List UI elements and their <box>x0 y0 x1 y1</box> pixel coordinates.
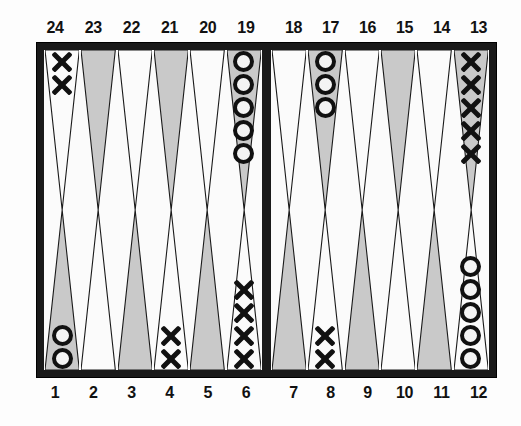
point-triangle-11 <box>417 210 451 370</box>
checker-x-13-5[interactable] <box>459 142 482 165</box>
checker-o-17-2[interactable] <box>314 73 337 96</box>
point-16[interactable] <box>344 50 380 210</box>
point-label-24: 24 <box>36 19 74 37</box>
bottom-point-labels: 1 2 3 4 5 6 7 8 9 10 11 12 <box>36 382 497 404</box>
top-point-labels: 24 23 22 21 20 19 18 17 16 15 14 13 <box>36 17 497 39</box>
checker-o-19-3[interactable] <box>232 96 255 119</box>
point-12[interactable] <box>453 210 489 370</box>
point-22[interactable] <box>117 50 153 210</box>
board-left-half <box>44 50 262 370</box>
checker-o-12-1[interactable] <box>459 347 482 370</box>
checker-x-24-2[interactable] <box>51 73 74 96</box>
board-frame <box>36 42 497 378</box>
checker-stack-19[interactable] <box>226 50 262 165</box>
point-triangle-21 <box>154 50 188 210</box>
point-15[interactable] <box>380 50 416 210</box>
point-triangle-20 <box>190 50 224 210</box>
checker-x-13-2[interactable] <box>459 73 482 96</box>
point-24[interactable] <box>44 50 80 210</box>
checker-x-6-3[interactable] <box>232 301 255 324</box>
bottom-left-quadrant <box>44 210 262 370</box>
checker-o-19-4[interactable] <box>232 119 255 142</box>
checker-x-13-4[interactable] <box>459 119 482 142</box>
point-18[interactable] <box>271 50 307 210</box>
checker-x-6-1[interactable] <box>232 347 255 370</box>
checker-x-6-2[interactable] <box>232 324 255 347</box>
bottom-label-bar-gap <box>265 382 275 404</box>
checker-o-19-2[interactable] <box>232 73 255 96</box>
checker-o-12-3[interactable] <box>459 301 482 324</box>
checker-x-24-1[interactable] <box>51 50 74 73</box>
point-4[interactable] <box>153 210 189 370</box>
checker-o-17-3[interactable] <box>314 96 337 119</box>
checker-o-12-4[interactable] <box>459 278 482 301</box>
bottom-left-label-group: 1 2 3 4 5 6 <box>36 382 265 404</box>
point-label-5: 5 <box>189 384 227 402</box>
point-17[interactable] <box>307 50 343 210</box>
point-19[interactable] <box>226 50 262 210</box>
checker-x-8-2[interactable] <box>314 324 337 347</box>
point-label-9: 9 <box>349 384 386 402</box>
checker-x-4-2[interactable] <box>160 324 183 347</box>
checker-stack-8[interactable] <box>307 324 343 370</box>
point-23[interactable] <box>80 50 116 210</box>
checker-x-13-3[interactable] <box>459 96 482 119</box>
point-triangle-9 <box>345 210 379 370</box>
board-right-half <box>271 50 489 370</box>
top-left-label-group: 24 23 22 21 20 19 <box>36 17 265 39</box>
point-triangle-16 <box>345 50 379 210</box>
checker-o-17-1[interactable] <box>314 50 337 73</box>
point-7[interactable] <box>271 210 307 370</box>
point-21[interactable] <box>153 50 189 210</box>
checker-stack-13[interactable] <box>453 50 489 165</box>
point-triangle-7 <box>272 210 306 370</box>
checker-o-1-2[interactable] <box>51 324 74 347</box>
checker-stack-4[interactable] <box>153 324 189 370</box>
point-label-22: 22 <box>112 19 150 37</box>
point-label-16: 16 <box>349 19 386 37</box>
point-9[interactable] <box>344 210 380 370</box>
checker-o-1-1[interactable] <box>51 347 74 370</box>
point-triangle-5 <box>190 210 224 370</box>
checker-stack-24[interactable] <box>44 50 80 96</box>
board-bar[interactable] <box>262 50 271 370</box>
checker-o-19-1[interactable] <box>232 50 255 73</box>
checker-stack-6[interactable] <box>226 278 262 370</box>
checker-o-12-2[interactable] <box>459 324 482 347</box>
point-label-2: 2 <box>74 384 112 402</box>
bottom-right-label-group: 7 8 9 10 11 12 <box>275 382 497 404</box>
point-label-8: 8 <box>312 384 349 402</box>
checker-stack-12[interactable] <box>453 255 489 370</box>
point-3[interactable] <box>117 210 153 370</box>
checker-x-13-1[interactable] <box>459 50 482 73</box>
point-triangle-22 <box>118 50 152 210</box>
top-label-bar-gap <box>265 17 275 39</box>
point-label-7: 7 <box>275 384 312 402</box>
point-20[interactable] <box>189 50 225 210</box>
point-label-20: 20 <box>189 19 227 37</box>
point-11[interactable] <box>416 210 452 370</box>
point-label-21: 21 <box>151 19 189 37</box>
point-14[interactable] <box>416 50 452 210</box>
point-label-17: 17 <box>312 19 349 37</box>
point-label-15: 15 <box>386 19 423 37</box>
checker-x-4-1[interactable] <box>160 347 183 370</box>
point-label-6: 6 <box>227 384 265 402</box>
point-triangle-23 <box>81 50 115 210</box>
point-10[interactable] <box>380 210 416 370</box>
point-13[interactable] <box>453 50 489 210</box>
point-5[interactable] <box>189 210 225 370</box>
top-right-quadrant <box>271 50 489 210</box>
point-2[interactable] <box>80 210 116 370</box>
checker-stack-17[interactable] <box>307 50 343 119</box>
checker-o-19-5[interactable] <box>232 142 255 165</box>
checker-x-8-1[interactable] <box>314 347 337 370</box>
point-1[interactable] <box>44 210 80 370</box>
point-6[interactable] <box>226 210 262 370</box>
checker-stack-1[interactable] <box>44 324 80 370</box>
point-8[interactable] <box>307 210 343 370</box>
checker-x-6-4[interactable] <box>232 278 255 301</box>
point-label-4: 4 <box>151 384 189 402</box>
checker-o-12-5[interactable] <box>459 255 482 278</box>
point-label-14: 14 <box>423 19 460 37</box>
